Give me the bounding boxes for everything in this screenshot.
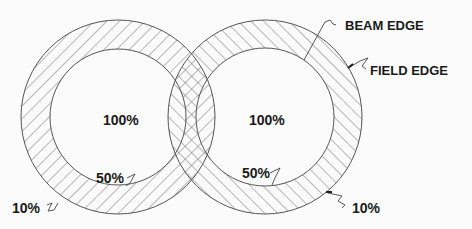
left-inner-label: 50%	[96, 170, 125, 186]
right-penumbra-hatch	[0, 0, 472, 229]
right-center-label: 100%	[249, 112, 285, 128]
right-field	[0, 0, 472, 229]
field-edge-label: FIELD EDGE	[370, 63, 448, 78]
diagram-canvas: 100% 100% 50% 50% 10% 10% BEAM EDGE FIEL…	[0, 0, 472, 229]
beam-edge-label: BEAM EDGE	[345, 18, 424, 33]
right-outer-label: 10%	[352, 200, 381, 216]
right-inner-label: 50%	[242, 165, 271, 181]
left-center-label: 100%	[103, 112, 139, 128]
left-outer-label: 10%	[12, 200, 41, 216]
